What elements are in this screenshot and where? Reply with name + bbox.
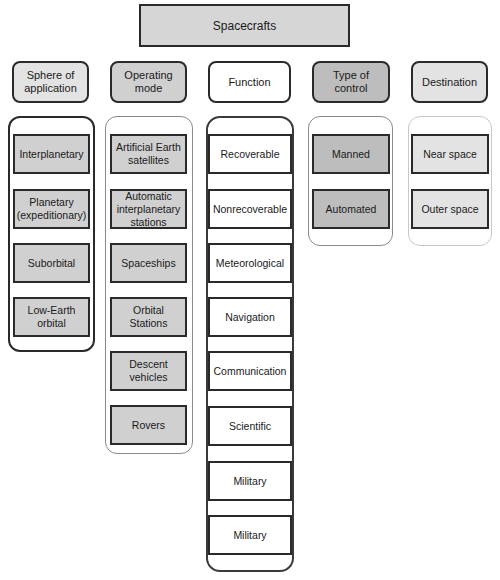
category-header-destination: Destination: [411, 61, 488, 103]
node-communication: Communication: [208, 351, 292, 391]
root-label: Spacecrafts: [213, 19, 276, 33]
node-label: Scientific: [229, 420, 271, 433]
node-recoverable: Recoverable: [208, 134, 292, 174]
category-header-function: Function: [208, 61, 291, 103]
node-scientific: Scientific: [208, 406, 292, 446]
node-rovers: Rovers: [110, 405, 187, 445]
category-header-type-of-control: Type of control: [312, 61, 390, 103]
node-manned: Manned: [312, 134, 390, 174]
category-header-label: Type of control: [317, 69, 385, 95]
node-label: Suborbital: [28, 257, 75, 270]
node-automated: Automated: [312, 189, 390, 229]
node-label: Planetary (expeditionary): [17, 196, 86, 222]
category-header-label: Function: [228, 76, 270, 89]
node-label: Military: [233, 475, 266, 488]
node-nonrecoverable: Nonrecoverable: [208, 189, 292, 229]
node-label: Artificial Earth satellites: [114, 141, 183, 167]
node-orbital-stations: Orbital Stations: [110, 297, 187, 337]
node-spaceships: Spaceships: [110, 243, 187, 283]
node-label: Rovers: [132, 419, 165, 432]
category-header-operating-mode: Operating mode: [110, 61, 187, 103]
node-label: Orbital Stations: [114, 304, 183, 330]
node-label: Automated: [326, 203, 377, 216]
group-container-function: [206, 116, 294, 572]
node-planetary: Planetary (expeditionary): [13, 189, 90, 229]
node-label: Near space: [423, 148, 477, 161]
node-label: Nonrecoverable: [213, 203, 287, 216]
category-header-sphere: Sphere of application: [12, 61, 89, 103]
node-outer-space: Outer space: [411, 189, 489, 229]
node-navigation: Navigation: [208, 297, 292, 337]
node-automatic-interplanetary-stations: Automatic interplanetary stations: [110, 189, 187, 229]
node-suborbital: Suborbital: [13, 243, 90, 283]
node-descent-vehicles: Descent vehicles: [110, 351, 187, 391]
node-label: Spaceships: [121, 257, 175, 270]
node-label: Recoverable: [221, 148, 280, 161]
node-label: Manned: [332, 148, 370, 161]
node-label: Meteorological: [216, 257, 284, 270]
node-label: Interplanetary: [19, 148, 83, 161]
category-header-label: Destination: [422, 76, 477, 89]
node-label: Automatic interplanetary stations: [114, 190, 183, 229]
node-military: Military: [208, 461, 292, 501]
root-node-spacecrafts: Spacecrafts: [139, 4, 350, 47]
node-low-earth-orbital: Low-Earth orbital: [13, 297, 90, 337]
node-near-space: Near space: [411, 134, 489, 174]
node-meteorological: Meteorological: [208, 243, 292, 283]
node-label: Low-Earth orbital: [17, 304, 86, 330]
node-label: Navigation: [225, 311, 275, 324]
category-header-label: Operating mode: [115, 69, 182, 95]
category-header-label: Sphere of application: [17, 69, 84, 95]
node-label: Outer space: [421, 203, 478, 216]
node-interplanetary: Interplanetary: [13, 134, 90, 174]
node-label: Descent vehicles: [114, 358, 183, 384]
node-military-2: Military: [208, 515, 292, 555]
node-label: Communication: [214, 365, 287, 378]
node-artificial-earth-satellites: Artificial Earth satellites: [110, 134, 187, 174]
node-label: Military: [233, 529, 266, 542]
